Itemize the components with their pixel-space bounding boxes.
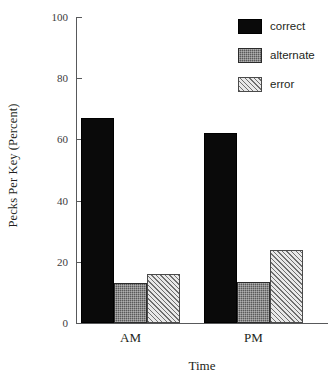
bar-pm-correct <box>204 133 237 323</box>
y-tick-mark <box>77 78 82 79</box>
y-axis-label-text: Pecks Per Key (Percent) <box>6 103 21 227</box>
bar-am-error <box>147 274 180 323</box>
x-axis-line <box>76 323 328 324</box>
y-axis-label: Pecks Per Key (Percent) <box>0 0 26 330</box>
y-tick-label: 60 <box>57 133 68 145</box>
legend-item-error[interactable]: error <box>238 76 334 92</box>
x-tick-label-pm: PM <box>244 330 263 346</box>
legend: correctalternateerror <box>238 18 334 105</box>
y-tick-label-group: 020406080100 <box>34 17 72 324</box>
y-tick-label: 40 <box>57 195 68 207</box>
y-tick-label: 80 <box>57 72 68 84</box>
y-tick-label: 100 <box>52 11 69 23</box>
chart-figure: Pecks Per Key (Percent) 020406080100 AMP… <box>0 0 334 386</box>
legend-swatch-correct <box>238 19 262 34</box>
bar-pm-alternate <box>237 282 270 323</box>
y-tick-mark <box>77 17 82 18</box>
bar-am-alternate <box>114 283 147 323</box>
y-tick-mark <box>77 323 82 324</box>
legend-label-alternate: alternate <box>270 49 315 61</box>
legend-label-correct: correct <box>270 20 305 32</box>
legend-item-alternate[interactable]: alternate <box>238 47 334 63</box>
legend-swatch-error <box>238 77 262 92</box>
legend-label-error: error <box>270 78 294 90</box>
y-tick-label: 20 <box>57 256 68 268</box>
bar-pm-error <box>270 250 303 323</box>
legend-swatch-alternate <box>238 48 262 63</box>
y-tick-label: 0 <box>63 317 69 329</box>
x-axis-label: Time <box>76 358 328 374</box>
legend-item-correct[interactable]: correct <box>238 18 334 34</box>
bar-am-correct <box>81 118 114 323</box>
x-tick-label-am: AM <box>120 330 141 346</box>
y-axis-line <box>76 17 77 324</box>
x-tick-label-group: AMPM <box>76 330 328 350</box>
